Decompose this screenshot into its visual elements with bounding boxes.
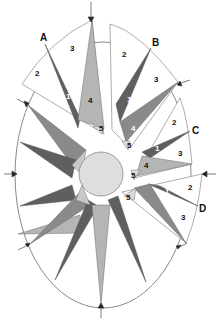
point-sse bbox=[108, 196, 146, 282]
segment-B-number-3: 3 bbox=[154, 75, 159, 84]
point-wsw bbox=[20, 185, 76, 206]
segment-D-number-5: 5 bbox=[126, 193, 131, 202]
segment-A-number-1: 1 bbox=[66, 92, 71, 101]
segment-B-number-2: 2 bbox=[122, 50, 127, 59]
segment-C-number-3: 3 bbox=[178, 149, 183, 158]
segment-D-number-1: 1 bbox=[165, 187, 170, 196]
segment-A-number-5: 5 bbox=[99, 124, 104, 133]
arrow-west-icon bbox=[12, 171, 17, 177]
segment-C-number-4: 4 bbox=[144, 161, 149, 170]
segment-A-number-4: 4 bbox=[88, 96, 93, 105]
segment-D-number-3: 3 bbox=[181, 213, 186, 222]
segment-A-number-3: 3 bbox=[70, 44, 75, 53]
label-B: B bbox=[152, 37, 159, 48]
segment-B-number-4: 4 bbox=[131, 124, 136, 133]
label-A: A bbox=[40, 32, 47, 43]
arrow-east-icon bbox=[202, 171, 207, 177]
compass-rose-diagram: A 2 3 1 4 5 B 2 3 1 4 5 C 2 3 1 4 5 D bbox=[0, 0, 221, 320]
segment-C-number-2: 2 bbox=[172, 118, 177, 127]
segment-A: A 2 3 1 4 5 bbox=[22, 20, 104, 134]
segment-C-number-1: 1 bbox=[155, 144, 160, 153]
segment-A-number-2: 2 bbox=[35, 69, 40, 78]
label-D: D bbox=[199, 203, 206, 214]
point-south bbox=[92, 205, 110, 305]
arrow-nw-icon bbox=[24, 101, 29, 107]
segment-D-number-4: 4 bbox=[145, 201, 150, 210]
segment-B-number-5: 5 bbox=[127, 141, 132, 150]
segment-B-number-1: 1 bbox=[127, 95, 132, 104]
segment-D: D 2 3 1 4 5 bbox=[122, 174, 206, 243]
label-C: C bbox=[192, 125, 199, 136]
center-circle bbox=[79, 152, 123, 196]
arrow-south-icon bbox=[98, 303, 104, 308]
segment-C-number-5: 5 bbox=[131, 171, 136, 180]
segment-D-number-2: 2 bbox=[188, 183, 193, 192]
